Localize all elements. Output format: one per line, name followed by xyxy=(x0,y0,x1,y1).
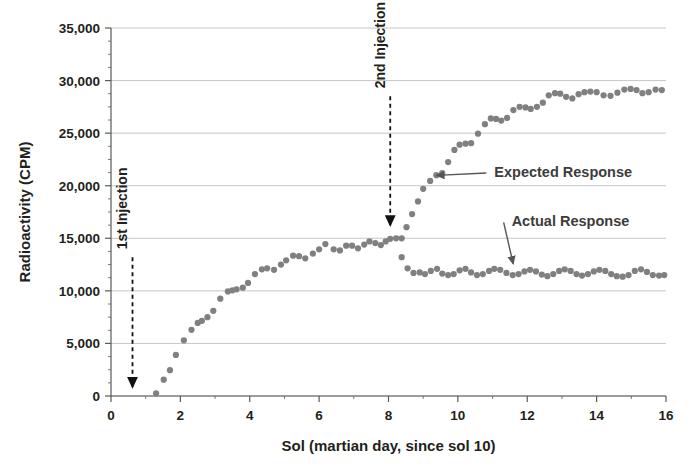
data-point xyxy=(515,271,521,277)
data-point xyxy=(633,87,639,93)
data-point xyxy=(563,94,569,100)
callout-label: Expected Response xyxy=(494,164,632,180)
data-point xyxy=(422,271,428,277)
data-point xyxy=(451,271,457,277)
x-axis-title: Sol (martian day, since sol 10) xyxy=(282,437,496,454)
y-tick-label: 0 xyxy=(92,389,100,404)
data-point xyxy=(652,86,658,92)
data-point xyxy=(245,280,251,286)
data-point xyxy=(310,250,316,256)
data-point xyxy=(322,241,328,247)
data-point xyxy=(278,261,284,267)
data-point xyxy=(181,337,187,343)
data-point xyxy=(607,93,613,99)
data-point xyxy=(581,89,587,95)
data-point xyxy=(451,147,457,153)
data-point xyxy=(199,318,205,324)
data-point xyxy=(445,272,451,278)
data-point xyxy=(331,246,337,252)
callout-label: Actual Response xyxy=(512,213,630,229)
data-point xyxy=(427,178,433,184)
annotation-expected-response-callout: Expected Response xyxy=(437,164,632,180)
data-point xyxy=(510,272,516,278)
data-points-group xyxy=(153,86,667,397)
data-point xyxy=(474,272,480,278)
data-point xyxy=(271,267,277,273)
data-point xyxy=(575,91,581,97)
chart-container: 05,00010,00015,00020,00025,00030,00035,0… xyxy=(0,0,700,468)
injection-label: 2nd Injection xyxy=(372,2,388,88)
data-point xyxy=(475,131,481,137)
data-point xyxy=(462,266,468,272)
x-tick-label: 14 xyxy=(589,408,605,423)
data-point xyxy=(510,107,516,113)
data-point xyxy=(491,266,497,272)
data-point xyxy=(153,390,159,396)
data-point xyxy=(627,86,633,92)
data-point xyxy=(480,271,486,277)
data-point xyxy=(204,314,210,320)
data-point xyxy=(445,159,451,165)
data-point xyxy=(404,265,410,271)
data-point xyxy=(233,286,239,292)
data-point xyxy=(544,273,550,279)
data-point xyxy=(456,267,462,273)
x-tick-label: 8 xyxy=(385,408,393,423)
data-point xyxy=(366,238,372,244)
data-point xyxy=(403,224,409,230)
y-axis-title: Radioactivity (CPM) xyxy=(16,142,33,283)
injection-label: 1st Injection xyxy=(115,168,131,250)
data-point xyxy=(540,100,546,106)
data-point xyxy=(428,268,434,274)
data-point xyxy=(625,272,631,278)
data-point xyxy=(456,142,462,148)
data-point xyxy=(638,266,644,272)
data-point xyxy=(361,241,367,247)
data-point xyxy=(632,268,638,274)
y-tick-label: 5,000 xyxy=(66,336,100,351)
data-point xyxy=(468,269,474,275)
data-point xyxy=(585,271,591,277)
data-point xyxy=(516,104,522,110)
x-tick-label: 16 xyxy=(658,408,674,423)
data-point xyxy=(608,271,614,277)
data-point xyxy=(562,266,568,272)
data-point xyxy=(504,115,510,121)
annotation-second-injection: 2nd Injection xyxy=(372,2,390,225)
y-tick-label: 30,000 xyxy=(59,74,100,89)
data-point xyxy=(557,91,563,97)
data-series xyxy=(399,254,668,280)
data-point xyxy=(498,117,504,123)
data-point xyxy=(539,271,545,277)
data-point xyxy=(439,270,445,276)
annotation-first-injection: 1st Injection xyxy=(115,168,133,387)
data-point xyxy=(434,266,440,272)
data-point xyxy=(650,272,656,278)
data-point xyxy=(161,377,167,383)
data-point xyxy=(556,268,562,274)
data-point xyxy=(602,268,608,274)
y-tick-label: 15,000 xyxy=(59,231,100,246)
data-point xyxy=(337,247,343,253)
data-point xyxy=(343,243,349,249)
data-point xyxy=(644,269,650,275)
y-tick-label: 25,000 xyxy=(59,126,100,141)
y-tick-label: 20,000 xyxy=(59,179,100,194)
x-tick-label: 6 xyxy=(315,408,323,423)
data-point xyxy=(409,211,415,217)
data-point xyxy=(296,253,302,259)
y-tick-label: 10,000 xyxy=(59,284,100,299)
data-point xyxy=(349,243,355,249)
y-tick-labels-group: 05,00010,00015,00020,00025,00030,00035,0… xyxy=(59,21,100,404)
data-point xyxy=(497,267,503,273)
data-point xyxy=(533,268,539,274)
data-point xyxy=(387,236,393,242)
data-point xyxy=(399,254,405,260)
data-point xyxy=(550,271,556,277)
data-point xyxy=(415,198,421,204)
data-point xyxy=(252,271,258,277)
data-point xyxy=(573,271,579,277)
data-point xyxy=(217,296,223,302)
data-point xyxy=(521,268,527,274)
data-point xyxy=(600,92,606,98)
